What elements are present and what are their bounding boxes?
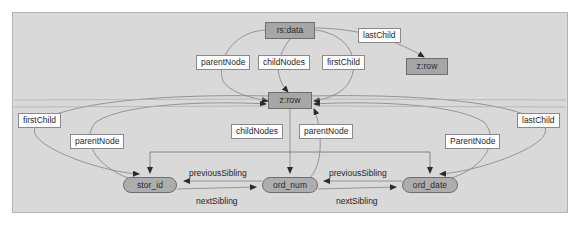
label-lastchild-right[interactable]: lastChild (517, 113, 560, 128)
label-parentnode-mid[interactable]: parentNode (299, 124, 353, 139)
edge-parentnode-mid (310, 109, 320, 178)
label-firstchild-left[interactable]: firstChild (18, 113, 61, 128)
edge-nextsibling-1 (177, 187, 256, 189)
label-parentnode-right[interactable]: ParentNode (445, 134, 500, 149)
edge-nextsibling-2 (318, 187, 396, 189)
edge-guide-right-upper (312, 99, 566, 100)
node-z-row-main-label: z:row (280, 96, 301, 105)
label-lastchild-right-text: lastChild (522, 116, 555, 125)
label-parentnode-left-text: parentNode (75, 137, 119, 146)
node-rs-data-label: rs:data (277, 26, 304, 35)
diagram-canvas: rs:data z:row z:row stor_id ord_num ord_… (0, 0, 581, 227)
label-childnodes-top-text: childNodes (263, 58, 305, 67)
edgelabel-previoussibling-1: previousSibling (189, 169, 247, 178)
edge-guide-right-lower (314, 106, 566, 107)
edgelabel-nextsibling-2: nextSibling (336, 197, 378, 206)
label-lastchild-top-text: lastChild (363, 31, 396, 40)
edgelabel-nextsibling-2-text: nextSibling (336, 196, 378, 206)
label-parentnode-top-text: parentNode (201, 58, 245, 67)
node-rs-data[interactable]: rs:data (265, 22, 315, 39)
node-ord-num-label: ord_num (273, 181, 307, 190)
edgelabel-previoussibling-2-text: previousSibling (329, 168, 387, 178)
label-parentnode-mid-text: parentNode (304, 127, 348, 136)
label-firstchild-top[interactable]: firstChild (322, 55, 365, 70)
edge-guide-left-upper (14, 99, 268, 100)
node-ord-num[interactable]: ord_num (262, 177, 318, 193)
label-lastchild-top[interactable]: lastChild (358, 28, 401, 43)
node-ord-date-label: ord_date (413, 181, 447, 190)
edge-guide-left-lower (14, 106, 266, 107)
label-parentnode-right-text: ParentNode (450, 137, 495, 146)
label-parentnode-top[interactable]: parentNode (196, 55, 250, 70)
node-stor-id-label: stor_id (137, 181, 163, 190)
node-ord-date[interactable]: ord_date (402, 177, 458, 193)
label-parentnode-left[interactable]: parentNode (70, 134, 124, 149)
label-childnodes-top[interactable]: childNodes (258, 55, 310, 70)
label-childnodes-mid-text: childNodes (236, 127, 278, 136)
node-z-row-right[interactable]: z:row (406, 58, 448, 75)
label-firstchild-top-text: firstChild (327, 58, 360, 67)
edgelabel-nextsibling-1-text: nextSibling (196, 196, 238, 206)
node-z-row-right-label: z:row (417, 62, 438, 71)
label-childnodes-mid[interactable]: childNodes (231, 124, 283, 139)
node-stor-id[interactable]: stor_id (123, 177, 177, 193)
edgelabel-previoussibling-2: previousSibling (329, 169, 387, 178)
node-z-row-main[interactable]: z:row (268, 92, 312, 109)
edgelabel-previoussibling-1-text: previousSibling (189, 168, 247, 178)
edgelabel-nextsibling-1: nextSibling (196, 197, 238, 206)
label-firstchild-left-text: firstChild (23, 116, 56, 125)
